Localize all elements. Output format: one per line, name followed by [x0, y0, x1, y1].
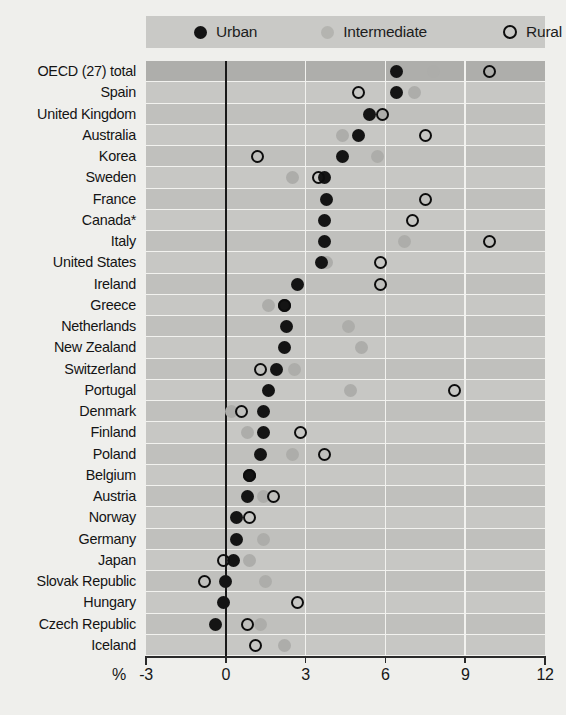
data-point-rural: [483, 235, 496, 248]
data-point-urban: [390, 86, 403, 99]
urban-marker-icon: [194, 26, 207, 39]
intermediate-marker-icon: [321, 26, 334, 39]
category-label: Germany: [0, 529, 139, 550]
category-label: United Kingdom: [0, 104, 139, 125]
gridline: [464, 61, 466, 656]
category-label: Italy: [0, 231, 139, 252]
data-point-rural: [374, 256, 387, 269]
data-point-urban: [257, 405, 270, 418]
category-label: OECD (27) total: [0, 61, 139, 82]
data-point-urban: [270, 363, 283, 376]
row-band: [146, 337, 545, 358]
category-label: Sweden: [0, 167, 139, 188]
x-axis-tick-label: 12: [525, 666, 565, 684]
data-point-intermediate: [371, 150, 384, 163]
data-point-urban: [318, 235, 331, 248]
data-point-intermediate: [398, 235, 411, 248]
category-label: Austria: [0, 486, 139, 507]
category-label: New Zealand: [0, 337, 139, 358]
data-point-intermediate: [278, 639, 291, 652]
data-point-rural: [374, 278, 387, 291]
gridline: [305, 61, 307, 656]
row-band: [146, 401, 545, 422]
rural-marker-icon: [503, 25, 517, 39]
x-axis-tick: [225, 656, 227, 663]
data-point-intermediate: [427, 65, 440, 78]
data-point-urban: [320, 193, 333, 206]
category-label: Portugal: [0, 380, 139, 401]
scatter-chart: Urban Intermediate Rural OECD (27) total…: [0, 0, 566, 715]
data-point-rural: [406, 214, 419, 227]
x-axis-tick-label: 0: [206, 666, 246, 684]
category-label: Spain: [0, 82, 139, 103]
row-band: [146, 529, 545, 550]
row-band: [146, 252, 545, 273]
data-point-intermediate: [342, 320, 355, 333]
row-band: [146, 635, 545, 656]
legend-label-rural: Rural: [526, 23, 562, 41]
category-axis-labels: OECD (27) totalSpainUnited KingdomAustra…: [0, 61, 139, 656]
data-point-rural: [448, 384, 461, 397]
chart-legend: Urban Intermediate Rural: [146, 16, 545, 48]
data-point-intermediate: [257, 533, 270, 546]
x-axis-tick: [145, 656, 147, 665]
category-label: Switzerland: [0, 359, 139, 380]
data-point-rural: [217, 554, 230, 567]
plot-area: [146, 61, 545, 656]
data-point-rural: [241, 618, 254, 631]
row-band: [146, 210, 545, 231]
row-band: [146, 422, 545, 443]
row-band: [146, 444, 545, 465]
category-label: Iceland: [0, 635, 139, 656]
category-label: Slovak Republic: [0, 571, 139, 592]
row-band: [146, 104, 545, 125]
data-point-urban: [217, 596, 230, 609]
x-axis-tick-label: 6: [365, 666, 405, 684]
category-label: Ireland: [0, 274, 139, 295]
category-label: France: [0, 189, 139, 210]
row-band: [146, 486, 545, 507]
data-point-rural: [249, 639, 262, 652]
x-axis-unit-label: %: [112, 666, 126, 684]
data-point-rural: [278, 299, 291, 312]
data-point-urban: [291, 278, 304, 291]
legend-label-urban: Urban: [216, 23, 257, 41]
data-point-rural: [376, 108, 389, 121]
data-point-urban: [363, 108, 376, 121]
data-point-rural: [318, 448, 331, 461]
legend-label-intermediate: Intermediate: [343, 23, 427, 41]
row-band: [146, 189, 545, 210]
category-label: Denmark: [0, 401, 139, 422]
legend-item-rural: Rural: [503, 16, 562, 48]
row-band: [146, 274, 545, 295]
legend-item-urban: Urban: [194, 16, 257, 48]
legend-item-intermediate: Intermediate: [321, 16, 427, 48]
row-band: [146, 167, 545, 188]
data-point-rural: [254, 363, 267, 376]
category-label: Finland: [0, 422, 139, 443]
data-point-intermediate: [241, 426, 254, 439]
data-point-urban: [209, 618, 222, 631]
data-point-intermediate: [254, 618, 267, 631]
data-point-rural: [419, 193, 432, 206]
row-band: [146, 614, 545, 635]
x-axis-line: [146, 656, 545, 658]
data-point-urban: [318, 214, 331, 227]
row-band: [146, 592, 545, 613]
data-point-urban: [254, 448, 267, 461]
category-label: Belgium: [0, 465, 139, 486]
category-label: Norway: [0, 507, 139, 528]
row-band: [146, 507, 545, 528]
category-label: United States: [0, 252, 139, 273]
data-point-urban: [262, 384, 275, 397]
category-label: Australia: [0, 125, 139, 146]
data-point-rural: [419, 129, 432, 142]
data-point-rural: [483, 65, 496, 78]
category-label: Korea: [0, 146, 139, 167]
data-point-urban: [241, 490, 254, 503]
row-band: [146, 465, 545, 486]
category-label: Czech Republic: [0, 614, 139, 635]
category-label: Canada*: [0, 210, 139, 231]
category-label: Japan: [0, 550, 139, 571]
x-axis-tick-label: -3: [126, 666, 166, 684]
